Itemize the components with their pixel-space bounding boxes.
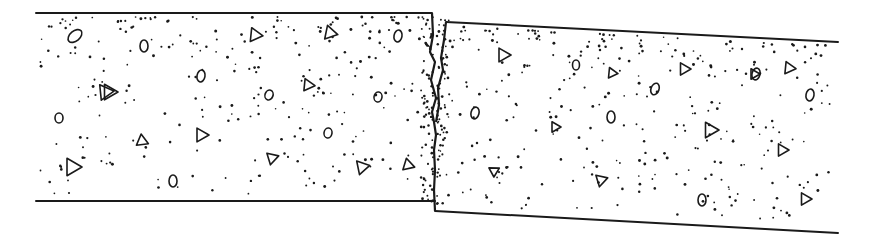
stipple-dot [426,195,428,197]
stipple-dot [172,44,174,46]
stipple-dot [423,69,425,71]
stipple-dot [688,169,690,171]
stipple-dot [191,175,194,178]
stipple-dot [620,47,623,50]
stipple-dot [233,70,236,73]
stipple-dot [598,104,600,106]
stipple-dot [101,81,103,83]
aggregate-oval [196,69,206,82]
stipple-dot [394,16,396,18]
right-slab-aggregates [470,48,815,206]
stipple-dot [425,107,427,109]
stipple-dot [438,155,440,157]
stipple-dot [638,52,640,54]
stipple-dot [124,20,126,22]
stipple-dot [527,29,529,31]
stipple-dot [196,42,198,44]
stipple-dot [152,54,155,57]
stipple-dot [700,55,702,57]
stipple-dot [442,33,444,35]
stipple-dot [444,104,446,106]
figure-canvas: Faulted concrete slab joint [0,0,871,248]
stipple-dot [309,69,311,71]
stipple-dot [436,202,438,204]
stipple-dot [753,64,755,66]
stipple-dot [821,102,823,104]
stipple-dot [552,42,555,45]
stipple-dot [407,155,409,157]
stipple-dot [767,149,769,151]
stipple-dot [641,50,644,53]
stipple-dot [230,104,233,107]
aggregate-oval [573,60,580,70]
stipple-dot [570,109,572,111]
stipple-dot [294,135,296,137]
stipple-dot [453,39,455,41]
stipple-dot [59,22,61,24]
stipple-dot [677,37,679,39]
stipple-dot [196,150,198,152]
stipple-dot [60,168,63,171]
stipple-dot [429,185,432,188]
stipple-dot [743,164,745,166]
stipple-dot [430,33,432,35]
stipple-dot [430,200,433,203]
stipple-dot [640,39,642,41]
stipple-dot [820,54,823,57]
stipple-dot [816,82,818,84]
stipple-dot [420,126,423,129]
stipple-dot [411,83,413,85]
stipple-dot [427,199,429,201]
stipple-dot [75,16,77,18]
stipple-dot [296,160,299,163]
stipple-dot [423,36,425,38]
stipple-dot [302,75,305,78]
stipple-dot [501,172,503,174]
stipple-dot [265,31,267,33]
stipple-dot [89,56,92,59]
stipple-dot [644,152,646,154]
stipple-dot [446,131,449,134]
stipple-dot [478,93,481,96]
stipple-dot [660,50,662,52]
stipple-dot [436,114,438,116]
stipple-dot [447,194,450,197]
stipple-dot [821,90,823,92]
stipple-dot [40,65,43,68]
stipple-dot [432,92,435,95]
stipple-dot [799,184,801,186]
stipple-dot [302,108,304,110]
stipple-dot [227,120,230,123]
stipple-dot [436,110,438,112]
stipple-dot [827,171,829,173]
stipple-dot [807,181,809,183]
stipple-dot [588,41,590,43]
stipple-dot [362,24,364,26]
stipple-dot [151,39,153,41]
stipple-dot [528,38,530,40]
stipple-dot [94,94,96,96]
stipple-dot [74,52,76,54]
stipple-dot [529,65,531,67]
stipple-dot [604,95,607,98]
stipple-dot [204,97,206,99]
stipple-dot [569,62,571,64]
stipple-dot [302,138,304,140]
stipple-dot [429,46,431,48]
stipple-dot [329,23,332,26]
stipple-dot [378,31,381,34]
stipple-dot [423,115,426,118]
stipple-dot [692,63,695,66]
stipple-dot [508,95,510,97]
stipple-dot [92,85,95,88]
aggregate-triangle [802,193,813,205]
stipple-dot [432,16,434,18]
stipple-dot [607,92,610,95]
aggregate-oval [607,111,615,123]
stipple-dot [250,180,252,182]
stipple-dot [486,88,488,90]
stipple-dot [638,175,640,177]
stipple-dot [829,103,831,105]
right-slab-bottom-edge [435,211,838,233]
stipple-dot [179,34,181,36]
